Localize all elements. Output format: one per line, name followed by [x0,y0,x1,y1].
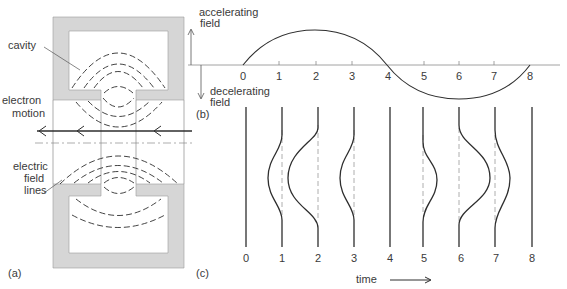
field-sinusoid [243,30,530,99]
c-tick-labels: 0 1 2 3 4 5 6 7 8 [243,252,535,264]
panel-a-label: (a) [8,267,21,279]
accelerating-arrow-icon [188,29,194,65]
wavefront-7 [495,107,510,247]
c-tick-5: 5 [421,252,427,264]
panel-c: 0 1 2 3 4 5 6 7 8 (c) time [196,107,535,285]
time-arrow-icon [390,277,431,283]
c-tick-3: 3 [351,252,357,264]
b-tick-6: 6 [456,70,462,82]
panel-b: accelerating field decelerating field (b… [188,6,560,120]
electron-motion-label-2: motion [12,107,45,119]
b-tick-0: 0 [240,70,246,82]
wavefront-2 [288,107,318,247]
b-tick-3: 3 [349,70,355,82]
wavefront-5 [423,107,437,247]
wavefront-1 [268,107,282,247]
c-tick-6: 6 [458,252,464,264]
b-tick-4: 4 [385,70,391,82]
wavefront-lines [246,107,532,247]
wavefront-3 [340,107,354,247]
time-label: time [356,273,377,285]
c-tick-2: 2 [315,252,321,264]
drift-tube-lines [53,100,184,184]
electron-motion-label-1: electron [2,94,41,106]
electron-beam-arrow [37,126,192,136]
accelerating-label-2: field [200,17,220,29]
reference-lines [282,125,495,222]
c-tick-4: 4 [387,252,393,264]
panel-c-label: (c) [196,267,209,279]
b-tick-5: 5 [421,70,427,82]
electric-field-label-3: lines [24,184,47,196]
panel-b-label: (b) [196,108,209,120]
c-tick-1: 1 [279,252,285,264]
bottom-cavity-wall [53,184,184,268]
decelerating-arrow-icon [198,65,204,99]
wavefront-6 [459,107,490,247]
c-tick-0: 0 [243,252,249,264]
c-tick-7: 7 [493,252,499,264]
decelerating-label-2: field [210,96,230,108]
electric-field-label-2: field [24,172,44,184]
b-tick-labels: 0 1 2 3 4 5 6 7 8 [240,70,533,82]
klystron-diagram: cavity electron motion electric field li… [0,0,567,289]
b-tick-1: 1 [276,70,282,82]
cavity-label: cavity [8,39,37,51]
electric-field-label-1: electric [13,160,48,172]
panel-a: cavity electron motion electric field li… [2,17,195,279]
b-tick-7: 7 [491,70,497,82]
c-tick-8: 8 [529,252,535,264]
b-tick-2: 2 [313,70,319,82]
b-tick-8: 8 [527,70,533,82]
